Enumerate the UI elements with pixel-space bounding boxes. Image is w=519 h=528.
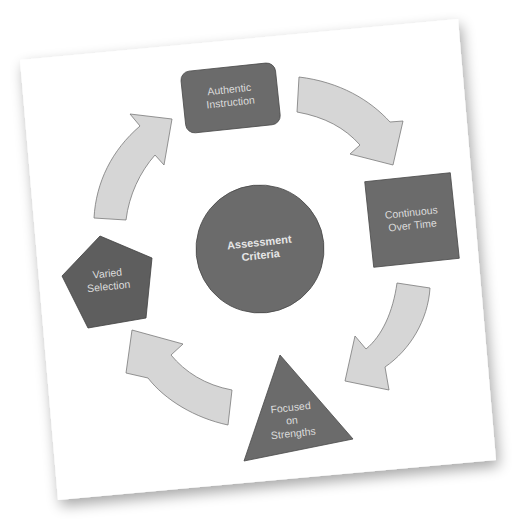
node-label-line2: on bbox=[285, 413, 298, 426]
node-authentic-instruction: Authentic Instruction bbox=[180, 62, 281, 134]
assessment-cycle-diagram: Authentic Instruction Continuous Over Ti… bbox=[0, 0, 519, 528]
node-continuous-over-time: Continuous Over Time bbox=[365, 173, 460, 268]
